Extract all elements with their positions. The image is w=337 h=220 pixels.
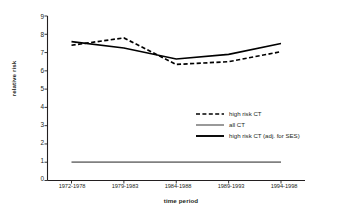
chart-legend: high risk CT all CT high risk CT (adj. f… bbox=[196, 108, 300, 141]
legend-label-high-risk-ct-adj-ses: high risk CT (adj. for SES) bbox=[229, 132, 300, 139]
legend-swatch-dashed bbox=[196, 109, 224, 119]
series-line-high-risk-ct-adj-ses bbox=[72, 42, 282, 59]
legend-item-all-ct: all CT bbox=[196, 119, 300, 130]
legend-label-high-risk-ct: high risk CT bbox=[229, 110, 262, 117]
legend-item-high-risk-ct: high risk CT bbox=[196, 108, 300, 119]
chart-figure: relative risk 9 8 7 6 5 4 3 2 1 0 1972-1… bbox=[0, 0, 337, 220]
legend-label-all-ct: all CT bbox=[229, 121, 245, 128]
legend-swatch-gray-solid bbox=[196, 120, 224, 130]
legend-swatch-black-solid bbox=[196, 131, 224, 141]
series-line-high-risk-ct bbox=[72, 38, 282, 65]
legend-item-high-risk-ct-adj-ses: high risk CT (adj. for SES) bbox=[196, 130, 300, 141]
